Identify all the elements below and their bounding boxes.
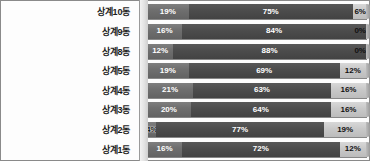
segment-value-label: 19% <box>160 8 176 16</box>
segment-value-label: 6% <box>354 8 366 16</box>
segment-value-label: 16% <box>340 86 356 94</box>
category-label: 상계9동 <box>0 25 138 38</box>
segment-value-label: 77% <box>232 126 248 134</box>
category-label: 상계10동 <box>0 5 138 18</box>
segment-value-label: 12% <box>345 67 361 75</box>
bar-segment[interactable]: 69% <box>189 63 340 78</box>
category-label: 상계2동 <box>0 123 138 136</box>
bar-segment[interactable]: 16% <box>147 142 182 157</box>
segment-value-label: 19% <box>160 67 176 75</box>
chart-row: 상계9동16%84%0% <box>0 22 370 40</box>
chart-rows: 상계10동19%75%6%상계9동16%84%0%상계8동12%88%0%상계5… <box>0 0 370 161</box>
category-label: 상계3동 <box>0 103 138 116</box>
bar-segment[interactable]: 19% <box>147 63 189 78</box>
bar-segment[interactable]: 12% <box>340 142 366 157</box>
bar-segment[interactable]: 6% <box>353 4 366 19</box>
segment-value-label: 64% <box>253 106 269 114</box>
bar-segment[interactable]: 77% <box>156 122 325 137</box>
bar-end-cap <box>366 44 370 59</box>
bar-track: 16%72%12% <box>147 142 366 157</box>
bar-track: 20%64%16% <box>147 102 366 117</box>
bar-segment[interactable]: 21% <box>147 83 193 98</box>
bar-track: 12%88%0% <box>147 44 366 59</box>
bar-track: 21%63%16% <box>147 83 366 98</box>
bar-segment[interactable]: 16% <box>331 102 366 117</box>
segment-value-label: 84% <box>266 27 282 35</box>
bar-segment[interactable]: 16% <box>331 83 366 98</box>
segment-value-label: 19% <box>337 126 353 134</box>
bar-end-cap <box>366 102 370 117</box>
chart-row: 상계2동4%77%19% <box>0 121 370 139</box>
segment-value-label: 63% <box>254 86 270 94</box>
bar-segment[interactable]: 4% <box>147 122 156 137</box>
segment-value-label: 69% <box>256 67 272 75</box>
chart-row: 상계10동19%75%6% <box>0 3 370 21</box>
segment-value-label: 0% <box>354 47 366 55</box>
segment-value-label: 16% <box>157 27 173 35</box>
bar-segment[interactable]: 12% <box>147 44 173 59</box>
bar-segment[interactable]: 19% <box>147 4 189 19</box>
category-label: 상계5동 <box>0 64 138 77</box>
segment-value-label: 16% <box>340 106 356 114</box>
bar-end-cap <box>366 24 370 39</box>
segment-value-label: 75% <box>263 8 279 16</box>
bar-segment[interactable]: 63% <box>193 83 331 98</box>
category-label: 상계8동 <box>0 45 138 58</box>
bar-track: 19%69%12% <box>147 63 366 78</box>
chart-row: 상계1동16%72%12% <box>0 140 370 158</box>
bar-end-cap <box>366 63 370 78</box>
bar-track: 4%77%19% <box>147 122 366 137</box>
bar-segment[interactable]: 19% <box>324 122 366 137</box>
axis-wall <box>139 136 148 161</box>
bar-end-cap <box>366 4 370 19</box>
chart-row: 상계4동21%63%16% <box>0 81 370 99</box>
segment-value-label: 12% <box>345 145 361 153</box>
bar-segment[interactable]: 12% <box>340 63 366 78</box>
chart-row: 상계3동20%64%16% <box>0 101 370 119</box>
bar-segment[interactable]: 64% <box>191 102 331 117</box>
segment-value-label: 72% <box>253 145 269 153</box>
bar-segment[interactable]: 75% <box>189 4 353 19</box>
bar-segment[interactable]: 88% <box>173 44 366 59</box>
segment-value-label: 12% <box>152 47 168 55</box>
segment-value-label: 16% <box>157 145 173 153</box>
bar-track: 19%75%6% <box>147 4 366 19</box>
segment-value-label: 88% <box>262 47 278 55</box>
chart-row: 상계5동19%69%12% <box>0 62 370 80</box>
category-label: 상계1동 <box>0 143 138 156</box>
segment-value-label: 20% <box>161 106 177 114</box>
bar-segment[interactable]: 16% <box>147 24 182 39</box>
stacked-bar-chart: 상계10동19%75%6%상계9동16%84%0%상계8동12%88%0%상계5… <box>0 0 370 161</box>
category-label: 상계4동 <box>0 84 138 97</box>
bar-end-cap <box>366 122 370 137</box>
segment-value-label: 21% <box>162 86 178 94</box>
bar-segment[interactable]: 20% <box>147 102 191 117</box>
bar-segment[interactable]: 72% <box>182 142 340 157</box>
bar-end-cap <box>366 142 370 157</box>
segment-value-label: 0% <box>354 27 366 35</box>
bar-end-cap <box>366 83 370 98</box>
bar-segment[interactable]: 84% <box>182 24 366 39</box>
chart-row: 상계8동12%88%0% <box>0 42 370 60</box>
bar-track: 16%84%0% <box>147 24 366 39</box>
